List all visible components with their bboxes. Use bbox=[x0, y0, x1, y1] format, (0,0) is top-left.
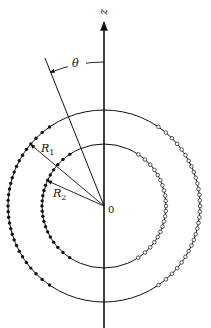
open-point bbox=[198, 204, 202, 208]
filled-point bbox=[9, 227, 12, 230]
filled-point bbox=[56, 246, 59, 249]
open-point bbox=[196, 227, 200, 231]
filled-point bbox=[42, 220, 45, 223]
filled-point bbox=[9, 182, 12, 185]
open-point bbox=[194, 232, 198, 236]
open-point bbox=[163, 215, 167, 219]
open-point bbox=[198, 193, 202, 197]
open-point bbox=[198, 210, 202, 214]
filled-point bbox=[12, 170, 15, 173]
filled-point bbox=[7, 216, 10, 219]
open-point bbox=[184, 153, 188, 157]
open-point bbox=[161, 225, 165, 229]
filled-point bbox=[52, 240, 55, 243]
filled-point bbox=[12, 238, 15, 241]
concentric-circles-diagram: z θ R1 R2 0 bbox=[0, 0, 211, 328]
open-point bbox=[164, 204, 168, 208]
filled-point bbox=[68, 153, 71, 156]
open-point bbox=[192, 170, 196, 174]
filled-point bbox=[44, 184, 47, 187]
open-point bbox=[136, 153, 140, 157]
open-point bbox=[190, 244, 194, 248]
filled-point bbox=[41, 194, 44, 197]
filled-point bbox=[41, 215, 44, 218]
open-point bbox=[163, 194, 167, 198]
filled-point bbox=[18, 249, 21, 252]
filled-point bbox=[21, 255, 24, 258]
filled-point bbox=[68, 256, 71, 259]
open-point bbox=[187, 159, 191, 163]
filled-point bbox=[18, 159, 21, 162]
filled-point bbox=[48, 125, 51, 128]
filled-point bbox=[52, 168, 55, 171]
open-point bbox=[157, 283, 161, 287]
filled-point bbox=[6, 199, 9, 202]
open-point bbox=[198, 215, 202, 219]
filled-point bbox=[40, 278, 43, 281]
open-point bbox=[159, 178, 163, 182]
open-point bbox=[159, 230, 163, 234]
filled-point bbox=[6, 210, 9, 213]
open-point bbox=[170, 136, 174, 140]
open-point bbox=[143, 251, 147, 255]
open-point bbox=[184, 255, 188, 259]
open-point bbox=[162, 189, 166, 193]
filled-point bbox=[42, 189, 45, 192]
open-point bbox=[164, 278, 168, 282]
open-point bbox=[157, 125, 161, 129]
open-point bbox=[187, 249, 191, 253]
open-point bbox=[192, 238, 196, 242]
open-point bbox=[156, 173, 160, 177]
filled-point bbox=[11, 176, 14, 179]
filled-point bbox=[61, 158, 64, 161]
filled-point bbox=[48, 283, 51, 286]
open-point bbox=[156, 235, 160, 239]
filled-point bbox=[41, 209, 44, 212]
filled-point bbox=[21, 153, 24, 156]
filled-point bbox=[8, 221, 11, 224]
filled-point bbox=[15, 244, 18, 247]
filled-point bbox=[25, 148, 28, 151]
open-point bbox=[143, 158, 147, 162]
filled-point bbox=[34, 137, 37, 140]
filled-point bbox=[11, 233, 14, 236]
open-point bbox=[175, 266, 179, 270]
filled-point bbox=[40, 131, 43, 134]
filled-point bbox=[49, 173, 52, 176]
open-point bbox=[162, 220, 166, 224]
filled-point bbox=[7, 193, 10, 196]
z-axis-label: z bbox=[98, 8, 111, 15]
open-point bbox=[164, 131, 168, 135]
open-point bbox=[197, 187, 201, 191]
filled-point bbox=[46, 230, 49, 233]
open-point bbox=[170, 272, 174, 276]
open-point bbox=[136, 256, 140, 260]
open-point bbox=[190, 165, 194, 169]
open-point bbox=[164, 209, 168, 213]
r2-label: R2 bbox=[52, 187, 66, 202]
open-point bbox=[196, 182, 200, 186]
origin-label: 0 bbox=[108, 204, 114, 215]
open-point bbox=[194, 176, 198, 180]
filled-point bbox=[6, 204, 9, 207]
open-point bbox=[180, 261, 184, 265]
filled-point bbox=[40, 204, 43, 207]
open-point bbox=[180, 148, 184, 152]
open-point bbox=[148, 163, 152, 167]
filled-point bbox=[44, 225, 47, 228]
filled-point bbox=[49, 235, 52, 238]
filled-point bbox=[8, 187, 11, 190]
filled-point bbox=[41, 199, 44, 202]
open-point bbox=[164, 199, 168, 203]
open-point bbox=[153, 240, 157, 244]
filled-point bbox=[15, 165, 18, 168]
r1-label: R1 bbox=[40, 142, 54, 157]
open-point bbox=[153, 168, 157, 172]
open-point bbox=[148, 246, 152, 250]
filled-point bbox=[25, 261, 28, 264]
open-point bbox=[161, 184, 165, 188]
filled-point bbox=[61, 251, 64, 254]
theta-label: θ bbox=[72, 57, 79, 70]
filled-point bbox=[34, 272, 37, 275]
open-point bbox=[175, 142, 179, 146]
